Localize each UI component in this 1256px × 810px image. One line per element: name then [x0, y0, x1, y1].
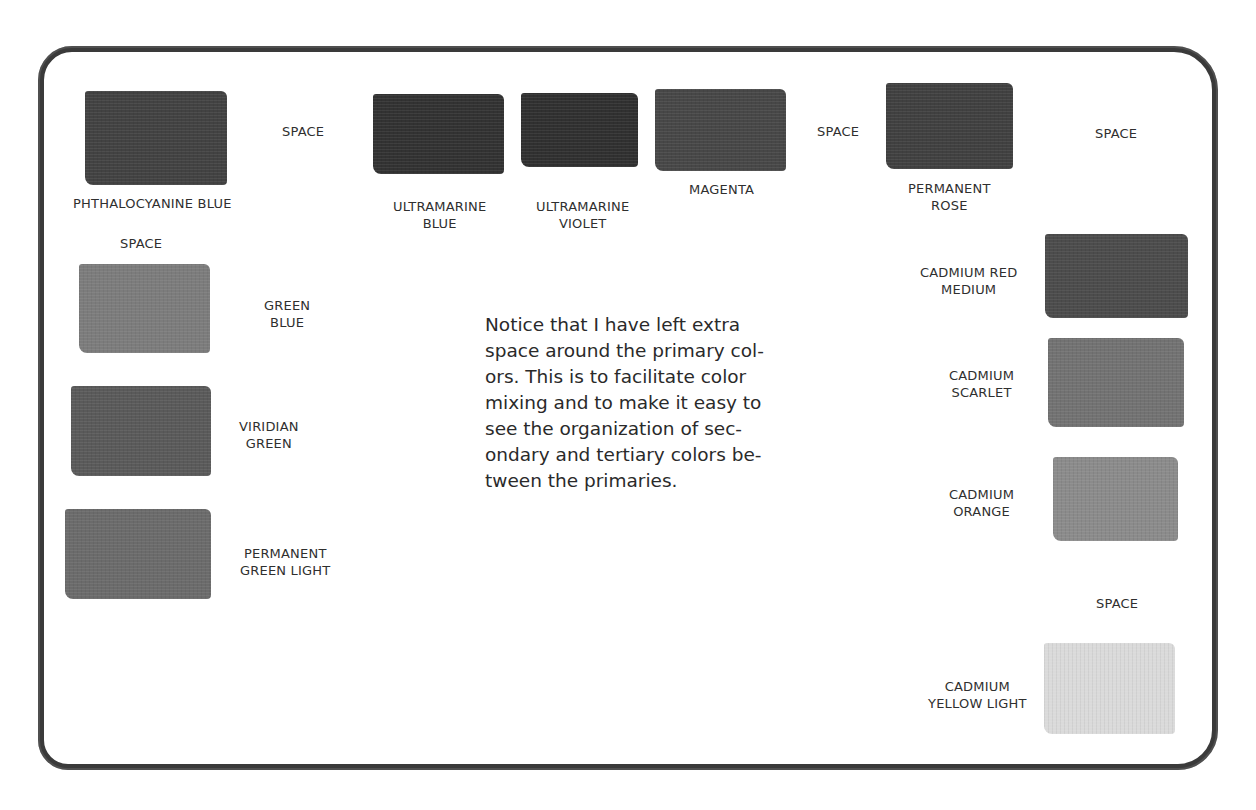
space-label-1: SPACE [282, 123, 324, 140]
label-cadmium-yellow-light: CADMIUM YELLOW LIGHT [928, 678, 1027, 712]
label-line: BLUE [264, 314, 310, 331]
label-ultramarine-blue: ULTRAMARINE BLUE [393, 198, 486, 232]
label-line: ULTRAMARINE [393, 198, 486, 215]
swatch-permanent-green-light [65, 509, 211, 599]
swatch-permanent-rose [886, 83, 1013, 169]
label-line: GREEN [239, 435, 299, 452]
label-permanent-rose: PERMANENT ROSE [908, 180, 991, 214]
label-line: SCARLET [949, 384, 1014, 401]
swatch-cadmium-orange [1053, 457, 1178, 541]
label-line: ORANGE [949, 503, 1014, 520]
label-viridian-green: VIRIDIAN GREEN [239, 418, 299, 452]
label-magenta: MAGENTA [689, 181, 754, 198]
label-phthalocyanine-blue: PHTHALOCYANINE BLUE [73, 195, 232, 212]
label-cadmium-red-medium: CADMIUM RED MEDIUM [920, 264, 1017, 298]
label-line: GREEN [264, 297, 310, 314]
label-cadmium-orange: CADMIUM ORANGE [949, 486, 1014, 520]
space-label-4: SPACE [120, 235, 162, 252]
label-permanent-green-light: PERMANENT GREEN LIGHT [240, 545, 330, 579]
label-ultramarine-violet: ULTRAMARINE VIOLET [536, 198, 629, 232]
label-line: ULTRAMARINE [536, 198, 629, 215]
label-line: PERMANENT [240, 545, 330, 562]
space-label-3: SPACE [1095, 125, 1137, 142]
label-line: MEDIUM [920, 281, 1017, 298]
swatch-phthalocyanine-blue [85, 91, 227, 185]
label-cadmium-scarlet: CADMIUM SCARLET [949, 367, 1014, 401]
label-line: BLUE [393, 215, 486, 232]
swatch-cadmium-scarlet [1048, 338, 1184, 427]
label-line: CADMIUM [949, 486, 1014, 503]
explanatory-note: Notice that I have left extra space arou… [485, 312, 805, 494]
label-green-blue: GREEN BLUE [264, 297, 310, 331]
swatch-ultramarine-violet [521, 93, 638, 167]
label-line: ROSE [908, 197, 991, 214]
label-line: VIOLET [536, 215, 629, 232]
swatch-magenta [655, 89, 786, 171]
swatch-viridian-green [71, 386, 211, 476]
swatch-ultramarine-blue [373, 94, 504, 174]
space-label-5: SPACE [1096, 595, 1138, 612]
label-line: VIRIDIAN [239, 418, 299, 435]
label-line: PHTHALOCYANINE BLUE [73, 195, 232, 212]
label-line: YELLOW LIGHT [928, 695, 1027, 712]
label-line: MAGENTA [689, 181, 754, 198]
swatch-cadmium-yellow-light [1044, 643, 1175, 734]
label-line: GREEN LIGHT [240, 562, 330, 579]
label-line: CADMIUM [928, 678, 1027, 695]
label-line: CADMIUM [949, 367, 1014, 384]
swatch-cadmium-red-medium [1045, 234, 1188, 318]
label-line: CADMIUM RED [920, 264, 1017, 281]
label-line: PERMANENT [908, 180, 991, 197]
space-label-2: SPACE [817, 123, 859, 140]
swatch-green-blue [79, 264, 210, 353]
